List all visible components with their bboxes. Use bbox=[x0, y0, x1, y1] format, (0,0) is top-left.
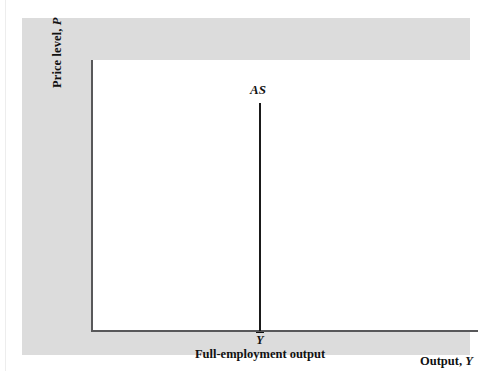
plot-area bbox=[92, 60, 477, 331]
figure-root: AS Price level, P Output, Y Y Full-emplo… bbox=[0, 0, 488, 371]
full-employment-output-caption: Full-employment output bbox=[92, 347, 428, 362]
page-edge-line bbox=[5, 0, 6, 371]
x-axis-label-variable: Y bbox=[465, 354, 473, 368]
aggregate-supply-curve-label: AS bbox=[250, 82, 266, 98]
x-axis-line bbox=[91, 330, 478, 332]
y-axis-line bbox=[91, 60, 93, 332]
figure-panel: AS Price level, P Output, Y Y Full-emplo… bbox=[22, 18, 470, 355]
y-axis-label: Price level, P bbox=[50, 0, 65, 88]
full-employment-output-tick-label: Y bbox=[247, 332, 273, 348]
ybar-symbol: Y bbox=[256, 332, 263, 346]
y-axis-label-variable: P bbox=[50, 18, 64, 26]
aggregate-supply-curve bbox=[259, 103, 261, 331]
y-axis-label-text: Price level, bbox=[50, 25, 64, 88]
